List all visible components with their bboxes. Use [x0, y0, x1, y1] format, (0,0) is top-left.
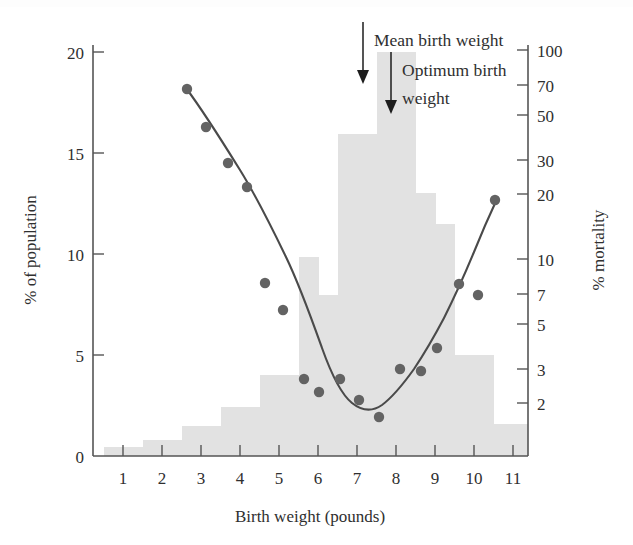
x-tick-label-6: 6	[314, 469, 323, 488]
x-axis-tick-labels: 1 2 3 4 5 6 7 8 9 10 11	[119, 469, 521, 488]
right-axis-tick-labels: 100 70 50 30 20 10 7 5 3 2	[537, 42, 563, 414]
x-tick-label-10: 10	[466, 469, 483, 488]
mean-birth-weight-arrow	[357, 22, 369, 84]
data-point-3	[223, 158, 233, 168]
right-tick-label-3: 3	[537, 361, 546, 380]
y-left-axis-title: % of population	[21, 195, 40, 305]
bar-9	[416, 224, 455, 456]
right-tick-label-10: 10	[537, 251, 554, 270]
x-tick-label-5: 5	[275, 469, 284, 488]
data-point-6	[278, 305, 288, 315]
left-axis-tick-labels: 20 15 10 5 0	[67, 44, 84, 467]
data-point-16	[473, 290, 483, 300]
bar-5	[260, 375, 299, 456]
chart-canvas: 20 15 10 5 0 100 70 50 30 20 10 7	[0, 0, 633, 545]
optimum-birth-weight-label-line1: Optimum birth	[402, 60, 507, 80]
left-tick-label-10: 10	[67, 246, 84, 265]
left-tick-label-5: 5	[76, 347, 85, 366]
right-tick-label-20: 20	[537, 186, 554, 205]
data-point-4	[242, 182, 252, 192]
data-point-15	[454, 279, 464, 289]
left-axis-ticks	[93, 52, 104, 355]
left-tick-label-0: 0	[76, 448, 85, 467]
right-tick-label-50: 50	[537, 107, 554, 126]
data-point-11	[374, 412, 384, 422]
x-tick-label-9: 9	[431, 469, 440, 488]
right-tick-label-5: 5	[537, 316, 546, 335]
right-axis-ticks	[517, 50, 528, 403]
x-tick-label-1: 1	[119, 469, 128, 488]
x-tick-label-7: 7	[353, 469, 362, 488]
data-point-14	[432, 343, 442, 353]
right-tick-label-30: 30	[537, 152, 554, 171]
data-point-17	[490, 195, 500, 205]
right-tick-label-7: 7	[537, 286, 546, 305]
x-tick-label-8: 8	[392, 469, 401, 488]
data-point-12	[395, 364, 405, 374]
data-point-5	[260, 278, 270, 288]
birth-weight-mortality-figure: 20 15 10 5 0 100 70 50 30 20 10 7	[0, 0, 633, 545]
data-point-13	[416, 366, 426, 376]
data-point-8	[314, 387, 324, 397]
x-tick-label-11: 11	[505, 469, 521, 488]
x-axis-title: Birth weight (pounds)	[235, 507, 385, 526]
data-point-2	[201, 122, 211, 132]
mean-arrow-head	[357, 70, 369, 84]
bar-step-6b	[299, 257, 319, 297]
right-tick-label-2: 2	[537, 395, 546, 414]
x-tick-label-2: 2	[158, 469, 167, 488]
x-tick-label-4: 4	[236, 469, 245, 488]
data-point-1	[182, 84, 192, 94]
y-right-axis-title: % mortality	[589, 209, 608, 290]
data-point-9	[335, 374, 345, 384]
data-point-7	[299, 374, 309, 384]
bar-11	[494, 424, 528, 456]
optimum-birth-weight-label-line2: weight	[402, 88, 450, 108]
right-tick-label-100: 100	[537, 42, 563, 61]
bar-10	[455, 355, 494, 456]
right-tick-label-70: 70	[537, 77, 554, 96]
bar-step-9b	[416, 193, 436, 228]
left-tick-label-20: 20	[67, 44, 84, 63]
data-point-10	[354, 395, 364, 405]
mean-birth-weight-label: Mean birth weight	[374, 30, 503, 50]
left-tick-label-15: 15	[67, 145, 84, 164]
x-tick-label-3: 3	[197, 469, 206, 488]
